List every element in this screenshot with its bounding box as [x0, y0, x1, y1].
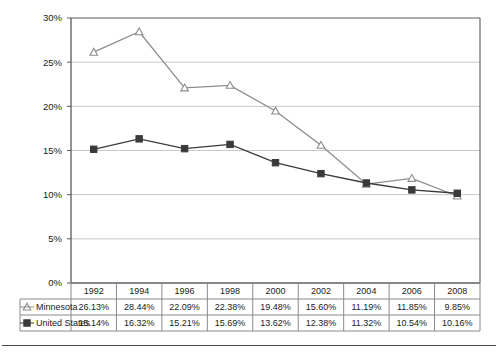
- table-header-cell: 2008: [447, 286, 467, 296]
- y-axis-tick-label: 25%: [43, 57, 63, 68]
- data-point-marker: [90, 48, 98, 55]
- table-data-cell: 11.32%: [351, 318, 381, 328]
- data-point-marker: [135, 28, 143, 35]
- table-data-cell: 15.69%: [215, 318, 246, 328]
- y-axis-tick-label: 5%: [48, 233, 62, 244]
- data-point-marker: [272, 107, 280, 114]
- table-header-cell: 1996: [175, 286, 195, 296]
- data-point-marker: [136, 136, 142, 142]
- table-header-cell: 1994: [129, 286, 149, 296]
- y-axis-tick-label: 15%: [43, 145, 63, 156]
- legend-series-label: Minnesota: [36, 302, 78, 312]
- data-point-marker: [409, 187, 415, 193]
- data-point-marker: [408, 175, 416, 182]
- table-data-cell: 10.16%: [442, 318, 473, 328]
- table-header-cell: 1998: [220, 286, 240, 296]
- y-axis-tick-label: 10%: [43, 189, 63, 200]
- footer-divider: [2, 345, 496, 346]
- data-point-marker: [227, 141, 233, 147]
- data-point-marker: [272, 159, 278, 165]
- line-chart-figure: 0%5%10%15%20%25%30% 19921994199619982000…: [0, 0, 500, 353]
- y-axis-tick-label: 30%: [43, 12, 63, 23]
- table-data-cell: 28.44%: [124, 302, 155, 312]
- table-data-cell: 11.19%: [351, 302, 381, 312]
- y-axis-tick-label: 20%: [43, 101, 63, 112]
- table-header-cell: 2002: [311, 286, 331, 296]
- table-data-cell: 10.54%: [397, 318, 428, 328]
- table-header-cell: 2000: [265, 286, 285, 296]
- data-point-marker: [454, 190, 460, 196]
- table-header-cell: 1992: [84, 286, 104, 296]
- table-data-cell: 12.38%: [306, 318, 337, 328]
- data-point-marker: [363, 180, 369, 186]
- data-point-marker: [91, 146, 97, 152]
- series-minnesota: [90, 28, 461, 199]
- data-point-marker: [181, 145, 187, 151]
- plot-gridlines: [71, 62, 480, 239]
- table-data-cell: 15.60%: [306, 302, 337, 312]
- table-data-cell: 16.32%: [124, 318, 155, 328]
- table-data-cell: 22.38%: [215, 302, 246, 312]
- y-axis-tick-labels: 0%5%10%15%20%25%30%: [43, 12, 63, 288]
- data-point-marker: [318, 170, 324, 176]
- y-axis-tick-label: 0%: [48, 277, 62, 288]
- table-data-cell: 26.13%: [78, 302, 109, 312]
- table-data-cell: 19.48%: [260, 302, 291, 312]
- table-header-cell: 2004: [356, 286, 376, 296]
- chart-svg: 0%5%10%15%20%25%30% 19921994199619982000…: [0, 0, 500, 353]
- table-data-cell: 22.09%: [169, 302, 200, 312]
- table-header-cell: 2006: [402, 286, 422, 296]
- data-table: 199219941996199820002002200420062008Minn…: [20, 283, 480, 331]
- table-data-cell: 11.85%: [397, 302, 427, 312]
- table-data-cell: 9.85%: [445, 302, 471, 312]
- table-data-cell: 15.21%: [169, 318, 200, 328]
- series-united-states: [91, 136, 461, 197]
- table-data-cell: 15.14%: [78, 318, 109, 328]
- table-data-cell: 13.62%: [260, 318, 291, 328]
